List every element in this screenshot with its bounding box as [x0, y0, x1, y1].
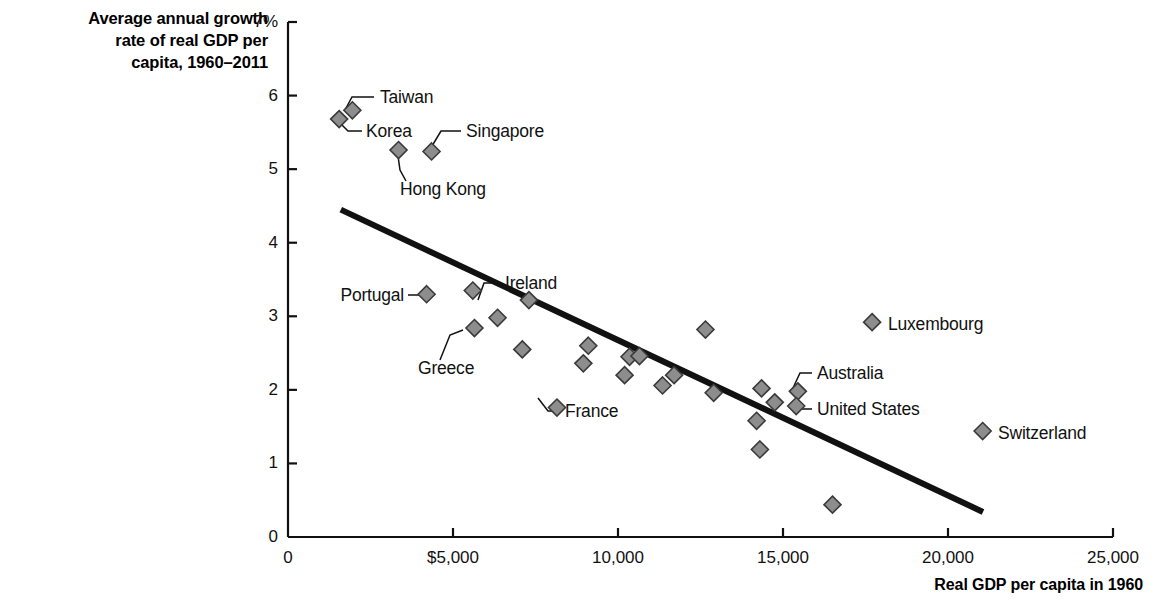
point-label-united-states: United States — [817, 399, 919, 420]
y-tick-label: 7% — [253, 12, 278, 32]
data-point-marker[interactable] — [654, 377, 671, 394]
y-tick-label: 6 — [269, 86, 278, 106]
data-point-marker[interactable] — [514, 341, 531, 358]
callout-leader — [398, 156, 406, 181]
x-tick-label: 15,000 — [757, 548, 809, 568]
data-point-marker[interactable] — [418, 286, 435, 303]
data-point-marker[interactable] — [466, 320, 483, 337]
y-tick-label: 2 — [269, 380, 278, 400]
x-tick-label: 10,000 — [592, 548, 644, 568]
data-point-marker[interactable] — [331, 111, 348, 128]
callout-leader — [432, 131, 461, 146]
point-label-switzerland: Switzerland — [998, 423, 1086, 444]
data-point-marker[interactable] — [789, 383, 806, 400]
point-label-korea: Korea — [366, 121, 412, 142]
callout-leader — [341, 124, 362, 131]
point-label-portugal: Portugal — [340, 285, 404, 306]
point-label-singapore: Singapore — [466, 121, 544, 142]
data-point-marker[interactable] — [580, 337, 597, 354]
point-label-hong-kong: Hong Kong — [400, 179, 486, 200]
data-point-marker[interactable] — [697, 321, 714, 338]
y-tick-label: 5 — [269, 159, 278, 179]
data-point-marker[interactable] — [423, 143, 440, 160]
data-point-marker[interactable] — [974, 423, 991, 440]
x-axis-ticks — [453, 528, 1113, 537]
data-point-marker[interactable] — [824, 496, 841, 513]
data-point-marker[interactable] — [390, 142, 407, 159]
point-label-greece: Greece — [418, 358, 474, 379]
x-tick-label: 25,000 — [1087, 548, 1139, 568]
data-point-marker[interactable] — [616, 367, 633, 384]
chart-figure: Average annual growth rate of real GDP p… — [0, 0, 1159, 615]
y-axis-ticks — [288, 22, 297, 463]
data-points — [331, 102, 992, 513]
data-point-marker[interactable] — [748, 412, 765, 429]
y-tick-label: 1 — [269, 453, 278, 473]
data-point-marker[interactable] — [548, 399, 565, 416]
data-point-marker[interactable] — [489, 309, 506, 326]
callout-leader — [440, 330, 463, 360]
data-point-marker[interactable] — [864, 314, 881, 331]
y-tick-label: 3 — [269, 306, 278, 326]
data-point-marker[interactable] — [751, 441, 768, 458]
data-point-marker[interactable] — [575, 355, 592, 372]
x-tick-label: $5,000 — [427, 548, 479, 568]
data-point-marker[interactable] — [753, 380, 770, 397]
point-label-luxembourg: Luxembourg — [888, 314, 983, 335]
point-label-france: France — [565, 401, 618, 422]
data-point-marker[interactable] — [788, 398, 805, 415]
y-tick-label: 0 — [269, 527, 278, 547]
data-point-marker[interactable] — [344, 102, 361, 119]
point-label-taiwan: Taiwan — [380, 87, 433, 108]
scatter-plot — [0, 0, 1159, 615]
y-tick-label: 4 — [269, 233, 278, 253]
x-tick-label: 0 — [283, 548, 292, 568]
point-label-ireland: Ireland — [505, 273, 557, 294]
x-tick-label: 20,000 — [922, 548, 974, 568]
point-label-australia: Australia — [817, 363, 883, 384]
